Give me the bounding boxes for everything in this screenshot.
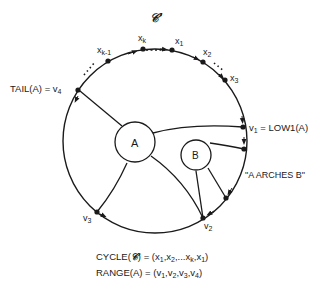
node-b-lower [223, 195, 228, 200]
label-tail: TAIL(A) = v4 [10, 83, 62, 95]
segment-a-label: A [131, 137, 139, 149]
cycle-arrow [160, 49, 165, 50]
edge-a-v1 [153, 126, 243, 133]
label-arches: "A ARCHES B" [245, 170, 305, 180]
formula-cycle: CYCLE(𝒞) = (x1,x2,...xk,x1) [96, 251, 208, 263]
diagram-canvas: A B 𝒞′ xk-1 xk x1 x2 x3 TAIL(A) = v4 v1 … [0, 0, 321, 292]
gap-dots-right [214, 63, 224, 71]
label-low1: v1 = LOW1(A) [249, 122, 308, 134]
label-xk: xk [138, 33, 147, 44]
label-x1: x1 [175, 36, 184, 47]
edge-b-right [210, 143, 244, 149]
cycle-arrow [76, 96, 78, 100]
node-x1 [169, 47, 174, 52]
node-b-right [241, 146, 246, 151]
cycle-arrow [242, 116, 243, 121]
node-xk-1 [105, 58, 110, 63]
label-v2: v2 [204, 221, 213, 232]
node-v1 [240, 124, 245, 129]
node-xk [140, 46, 145, 51]
node-x3 [222, 77, 227, 82]
node-v4 [75, 87, 80, 92]
segment-b-label: B [192, 150, 199, 161]
edge-a-v4 [80, 91, 122, 126]
node-v3 [94, 209, 99, 214]
cycle-title: 𝒞′ [150, 11, 163, 25]
edge-a-v3 [97, 163, 127, 212]
node-v2 [200, 215, 205, 220]
label-xk-1: xk-1 [97, 45, 111, 56]
label-x2: x2 [203, 47, 212, 58]
label-x3: x3 [230, 73, 239, 84]
label-v3: v3 [83, 213, 92, 224]
node-x2 [200, 59, 205, 64]
formula-range: RANGE(A) = (v1,v2,v3,v4) [96, 267, 202, 279]
edge-b-lower [208, 168, 226, 198]
